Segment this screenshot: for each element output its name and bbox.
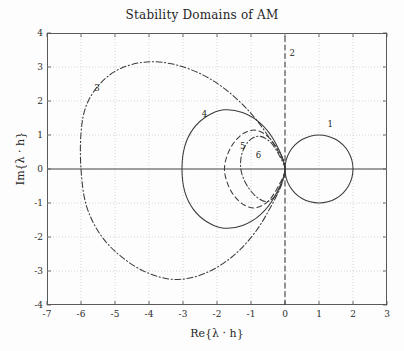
x-tick-label: 2 [350,309,356,319]
y-tick-label: 4 [21,28,43,38]
curve-label-4: 4 [202,109,207,119]
x-tick-label: -2 [213,309,222,319]
y-tick-label: 3 [21,62,43,72]
curve-label-2: 2 [289,48,294,58]
x-axis-label: Re{λ · h} [47,327,387,340]
x-tick-label: -7 [43,309,52,319]
x-tick-label: -1 [247,309,256,319]
plot-axes-frame [47,33,387,305]
curve-label-3: 3 [94,83,99,93]
curve-label-5: 5 [240,141,245,151]
x-tick-label: -4 [145,309,154,319]
x-tick-label: 1 [316,309,322,319]
x-tick-label: -3 [179,309,188,319]
y-tick-label: -4 [21,300,43,310]
stability-domains-figure: Stability Domains of AM -7-6-5-4-3-2-101… [0,0,404,351]
curve-label-1: 1 [328,119,333,129]
y-axis-label: Im{λ · h} [14,99,27,219]
y-tick-label: -2 [21,232,43,242]
x-tick-label: -6 [77,309,86,319]
x-tick-label: -5 [111,309,120,319]
y-tick-label: -3 [21,266,43,276]
page-title: Stability Domains of AM [0,8,404,22]
x-tick-label: 0 [282,309,288,319]
curve-label-6: 6 [256,150,261,160]
x-tick-label: 3 [384,309,390,319]
